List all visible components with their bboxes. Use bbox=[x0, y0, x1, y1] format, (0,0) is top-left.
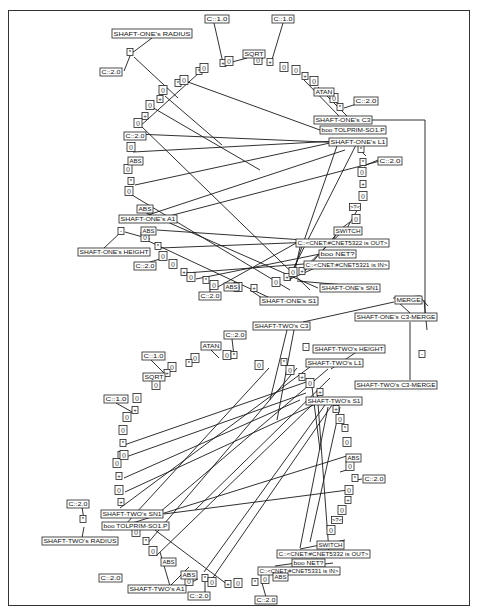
node-s2-in[interactable]: C::<CNET:#CNET5331 is IN> bbox=[258, 567, 340, 575]
node-s2-radius[interactable]: SHAFT-TWO's RADIUS bbox=[42, 537, 118, 545]
operator-node[interactable]: * bbox=[231, 352, 237, 359]
node-s1-sn1[interactable]: SHAFT-ONE's SN1 bbox=[320, 284, 380, 292]
operator-node[interactable]: () bbox=[255, 361, 263, 370]
operator-node[interactable]: () bbox=[272, 278, 280, 287]
operator-node[interactable]: () bbox=[359, 192, 367, 201]
node-s1-abs4[interactable]: ABS bbox=[224, 283, 239, 291]
operator-node[interactable]: + bbox=[132, 407, 138, 414]
operator-node[interactable]: () bbox=[125, 187, 133, 196]
node-s2-c1b[interactable]: C::1.0 bbox=[104, 395, 128, 403]
node-s1-sqrt[interactable]: SQRT bbox=[243, 50, 265, 58]
operator-node[interactable]: () bbox=[115, 486, 123, 495]
operator-node[interactable]: () bbox=[345, 486, 353, 495]
node-s1-c1b[interactable]: C::1.0 bbox=[272, 15, 294, 23]
node-s2-c2e[interactable]: C::2.0 bbox=[188, 592, 210, 600]
operator-node[interactable]: - bbox=[118, 228, 124, 235]
node-s1-c2f[interactable]: C::2.0 bbox=[199, 292, 221, 300]
operator-node[interactable]: + bbox=[299, 374, 305, 381]
operator-node[interactable]: () bbox=[169, 260, 177, 269]
operator-node[interactable]: * bbox=[128, 178, 134, 185]
operator-node[interactable]: + bbox=[333, 406, 339, 413]
operator-node[interactable]: * bbox=[143, 538, 149, 545]
operator-node[interactable]: () bbox=[358, 168, 366, 177]
node-s2-height[interactable]: SHAFT-TWO's HEIGHT bbox=[313, 345, 385, 353]
node-s1-a1[interactable]: SHAFT-ONE's A1 bbox=[119, 215, 177, 223]
operator-node[interactable]: * bbox=[352, 475, 358, 482]
operator-node[interactable]: () bbox=[280, 63, 288, 72]
node-s2-switch[interactable]: SWITCH bbox=[317, 541, 344, 549]
operator-node[interactable]: () bbox=[346, 462, 354, 471]
operator-node[interactable]: () bbox=[352, 215, 360, 224]
node-s1-out[interactable]: C::<CNET:#CNET5322 is OUT> bbox=[296, 239, 389, 247]
operator-node[interactable]: () bbox=[124, 165, 132, 174]
node-s1-c3[interactable]: SHAFT-ONE's C3 bbox=[314, 116, 372, 124]
node-s1-atan[interactable]: ATAN bbox=[314, 88, 334, 96]
operator-node[interactable]: + bbox=[345, 497, 351, 504]
node-s1-c2a[interactable]: C::2.0 bbox=[100, 68, 122, 76]
node-s2-c3merge[interactable]: SHAFT-TWO's C3-MERGE bbox=[355, 381, 437, 389]
operator-node[interactable]: () bbox=[200, 64, 208, 73]
node-s2-abs3[interactable]: ABS bbox=[181, 571, 197, 579]
node-s2-c2b[interactable]: C::2.0 bbox=[363, 475, 385, 483]
operator-node[interactable]: * bbox=[337, 104, 343, 111]
operator-node[interactable]: () bbox=[234, 579, 242, 588]
node-s2-net[interactable]: boo NET? bbox=[292, 559, 325, 567]
node-s1-switch[interactable]: SWITCH bbox=[334, 227, 362, 235]
node-s2-c2d[interactable]: C::2.0 bbox=[99, 574, 122, 582]
operator-node[interactable]: + bbox=[181, 269, 187, 276]
operator-node[interactable]: + bbox=[118, 499, 124, 506]
operator-node[interactable]: * bbox=[186, 360, 192, 367]
operator-node[interactable]: * bbox=[155, 243, 161, 250]
operator-node[interactable]: () bbox=[149, 547, 157, 556]
operator-node[interactable]: + bbox=[317, 389, 323, 396]
node-s1-abs1[interactable]: ABS bbox=[128, 157, 143, 165]
operator-node[interactable]: - bbox=[419, 351, 425, 358]
operator-node[interactable]: * bbox=[358, 146, 364, 153]
operator-node[interactable]: * bbox=[80, 516, 86, 523]
operator-node[interactable]: + bbox=[225, 581, 231, 588]
operator-node[interactable]: () bbox=[152, 381, 160, 390]
node-s2-abs4[interactable]: ABS bbox=[273, 573, 288, 581]
operator-node[interactable]: * bbox=[281, 359, 287, 366]
operator-node[interactable]: () bbox=[180, 76, 188, 85]
node-s1-c3merge[interactable]: SHAFT-ONE's C3-MERGE bbox=[355, 313, 437, 321]
node-s1-net[interactable]: boo NET? bbox=[319, 250, 356, 258]
node-s2-abs1[interactable]: ABS bbox=[346, 454, 361, 462]
operator-node[interactable]: * bbox=[127, 49, 133, 56]
node-s2-l1[interactable]: SHAFT-TWO's L1 bbox=[306, 359, 363, 367]
operator-node[interactable]: * bbox=[202, 575, 208, 582]
node-s2-c2c[interactable]: C::2.0 bbox=[67, 500, 89, 508]
node-s1-c2e[interactable]: C::2.0 bbox=[134, 262, 156, 270]
node-s1-l1[interactable]: SHAFT-ONE's L1 bbox=[329, 138, 387, 146]
node-merge[interactable]: MERGE bbox=[395, 296, 422, 304]
node-s1-radius[interactable]: SHAFT-ONE's RADIUS bbox=[112, 29, 192, 38]
operator-node[interactable]: * bbox=[252, 579, 258, 586]
operator-node[interactable]: () bbox=[327, 526, 335, 535]
operator-node[interactable]: - bbox=[303, 344, 309, 351]
node-s2-c3[interactable]: SHAFT-TWO's C3 bbox=[253, 322, 310, 330]
node-s2-abs2[interactable]: ABS bbox=[161, 558, 176, 566]
node-s1-tolprim[interactable]: boo TOLPRIM-SO1.P bbox=[320, 126, 386, 134]
node-s1-abs2[interactable]: ABS bbox=[137, 205, 153, 213]
operator-node[interactable]: () bbox=[123, 413, 131, 422]
operator-node[interactable]: () bbox=[225, 57, 233, 66]
node-s1-c2d[interactable]: C::2.0 bbox=[378, 157, 402, 165]
operator-node[interactable]: + bbox=[142, 113, 148, 120]
node-s2-sqrt[interactable]: SQRT bbox=[143, 373, 165, 381]
operator-node[interactable]: () bbox=[187, 273, 195, 282]
operator-node[interactable]: () bbox=[159, 86, 167, 95]
operator-node[interactable]: () bbox=[292, 66, 300, 75]
operator-node[interactable]: + bbox=[116, 473, 122, 480]
operator-node[interactable]: () bbox=[119, 426, 127, 435]
node-s2-sn1[interactable]: SHAFT-TWO's SN1 bbox=[101, 510, 163, 518]
operator-node[interactable]: () bbox=[223, 351, 231, 360]
node-s1-c2b[interactable]: C::2.0 bbox=[354, 97, 378, 105]
node-s2-a1[interactable]: SHAFT-TWO's A1 bbox=[128, 585, 186, 593]
node-s1-height[interactable]: SHAFT-ONE's HEIGHT bbox=[78, 248, 150, 256]
operator-node[interactable]: () bbox=[208, 578, 216, 587]
operator-node[interactable]: >?< bbox=[350, 204, 361, 211]
node-s1-c1a[interactable]: C::1.0 bbox=[205, 15, 229, 23]
node-s1-s1[interactable]: SHAFT-ONE's S1 bbox=[260, 297, 318, 305]
operator-node[interactable]: () bbox=[134, 119, 142, 128]
operator-node[interactable]: + bbox=[157, 96, 163, 103]
